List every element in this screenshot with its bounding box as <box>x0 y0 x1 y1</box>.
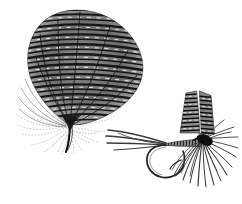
illustration-plate <box>0 0 242 204</box>
illustration-canvas <box>0 0 242 204</box>
